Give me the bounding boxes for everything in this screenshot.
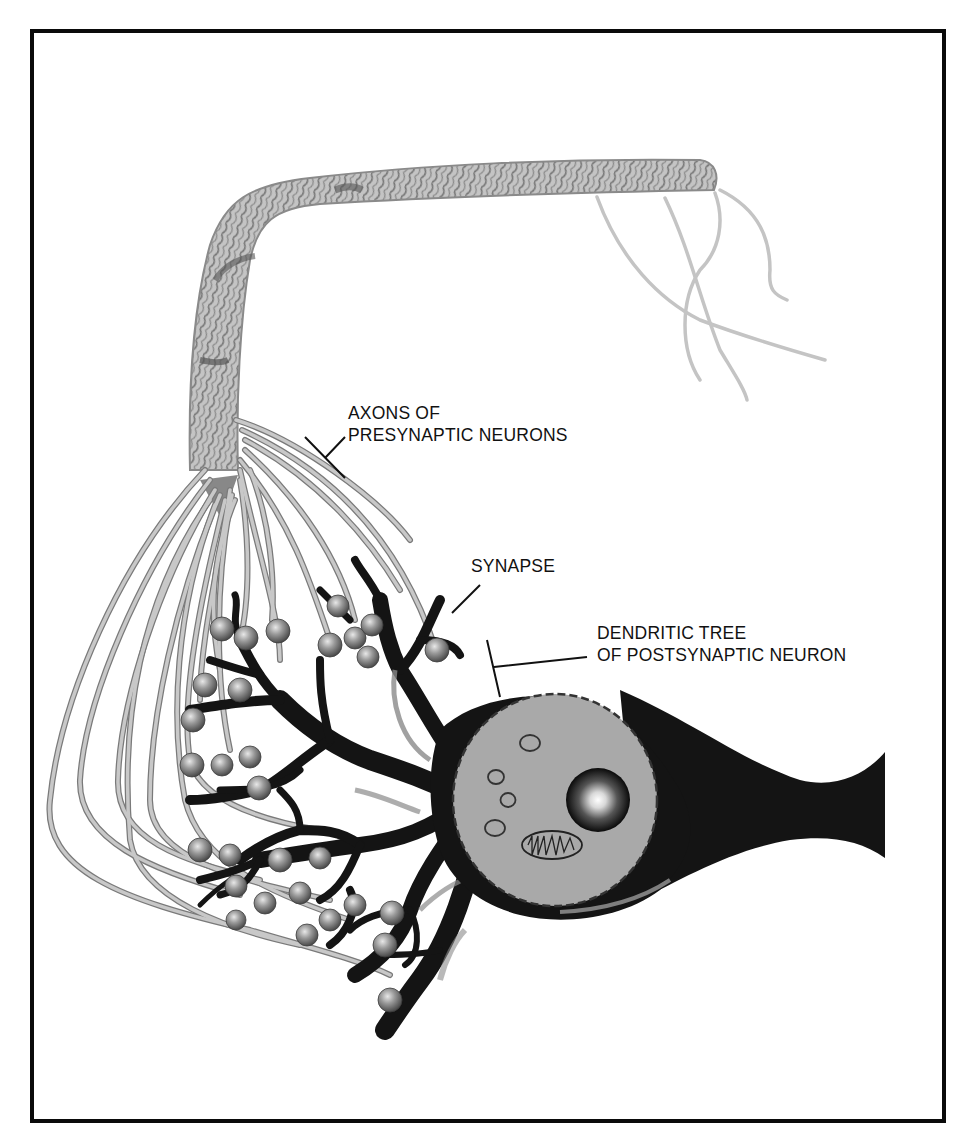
label-axons-line1: AXONS OF <box>348 402 568 424</box>
axon-bundle <box>190 160 717 520</box>
label-dendritic-line2: OF POSTSYNAPTIC NEURON <box>597 644 846 666</box>
label-axons-line2: PRESYNAPTIC NEURONS <box>348 424 568 446</box>
label-dendritic-tree: DENDRITIC TREE OF POSTSYNAPTIC NEURON <box>597 622 846 666</box>
label-synapse: SYNAPSE <box>471 555 555 577</box>
nucleolus <box>566 768 630 832</box>
synapse-leader <box>452 585 480 613</box>
label-synapse-line1: SYNAPSE <box>471 555 555 577</box>
dendritic-leader <box>487 640 587 697</box>
label-axons-presynaptic: AXONS OF PRESYNAPTIC NEURONS <box>348 402 568 446</box>
mitochondrion <box>522 831 582 859</box>
label-dendritic-line1: DENDRITIC TREE <box>597 622 846 644</box>
frayed-axon-ends <box>597 190 825 400</box>
